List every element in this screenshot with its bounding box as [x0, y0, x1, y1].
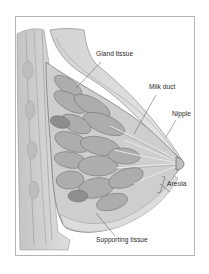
label-supporting-tissue: Supporting tissue [96, 237, 148, 244]
breast-anatomy-illustration [0, 0, 209, 274]
nipple [176, 157, 184, 170]
label-gland-tissue: Gland tissue [96, 51, 133, 58]
label-areola: Areola [167, 181, 186, 188]
label-nipple: Nipple [172, 111, 191, 118]
label-milk-duct: Milk duct [149, 84, 175, 91]
